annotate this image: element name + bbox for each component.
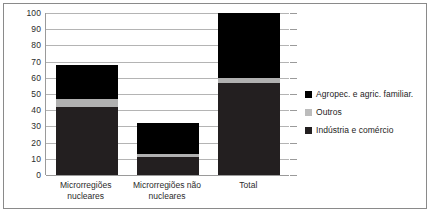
bar-stack <box>56 65 118 175</box>
x-axis-category-label: Microrregiões nucleares <box>45 180 126 202</box>
right-axis-ticks <box>290 13 297 175</box>
bar-segment <box>218 13 280 78</box>
bar-segment <box>137 157 199 175</box>
y-axis-tick-label: 90 <box>31 24 41 34</box>
gridline-0 <box>46 175 289 176</box>
legend-item[interactable]: Agropec. e agric. familiar. <box>305 85 430 103</box>
legend-item[interactable]: Indústria e comércio <box>305 121 430 139</box>
x-axis-category-label: Microrregiões não nucleares <box>126 180 207 202</box>
right-tick-50 <box>290 94 297 95</box>
y-axis-tick-label: 20 <box>31 138 41 148</box>
y-axis-tick-label: 10 <box>31 154 41 164</box>
chart-frame: 0102030405060708090100 Microrregiões nuc… <box>3 3 427 209</box>
legend-swatch-black-icon <box>305 91 312 98</box>
right-tick-80 <box>290 45 297 46</box>
legend-swatch-dark-icon <box>305 127 312 134</box>
bar-segment <box>56 107 118 175</box>
y-axis-tick-label: 30 <box>31 121 41 131</box>
x-axis-category-label: Total <box>208 180 289 191</box>
right-tick-70 <box>290 62 297 63</box>
legend-item-label: Agropec. e agric. familiar. <box>316 89 413 99</box>
right-tick-90 <box>290 29 297 30</box>
y-axis-tick-label: 100 <box>27 8 41 18</box>
y-axis-tick-label: 60 <box>31 73 41 83</box>
y-axis-tick-label: 50 <box>31 89 41 99</box>
legend-item-label: Indústria e comércio <box>316 125 394 135</box>
chart-legend: Agropec. e agric. familiar.OutrosIndústr… <box>305 85 430 139</box>
plot-area: 0102030405060708090100 <box>45 13 289 175</box>
right-tick-100 <box>290 13 297 14</box>
bar-segment <box>137 123 199 154</box>
right-tick-30 <box>290 126 297 127</box>
bar-segment <box>56 65 118 99</box>
legend-item[interactable]: Outros <box>305 103 430 121</box>
bar-stack <box>218 13 280 175</box>
bar-segment <box>218 83 280 175</box>
legend-swatch-gray-icon <box>305 109 312 116</box>
bar-segment <box>56 99 118 107</box>
bar-stack <box>137 123 199 175</box>
right-tick-10 <box>290 159 297 160</box>
chart-plot-wrapper: 0102030405060708090100 Microrregiões nuc… <box>4 4 428 210</box>
y-axis-tick-label: 0 <box>36 170 41 180</box>
right-tick-0 <box>290 175 297 176</box>
right-tick-40 <box>290 110 297 111</box>
y-axis-tick-label: 40 <box>31 105 41 115</box>
legend-item-label: Outros <box>316 107 342 117</box>
right-tick-20 <box>290 143 297 144</box>
y-axis-tick-label: 70 <box>31 57 41 67</box>
y-axis-tick-label: 80 <box>31 40 41 50</box>
right-tick-60 <box>290 78 297 79</box>
